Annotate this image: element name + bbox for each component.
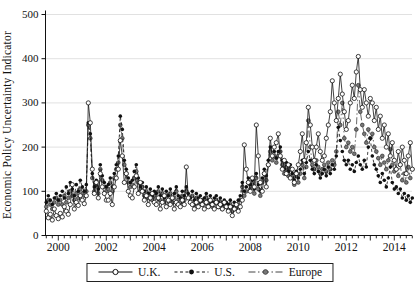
legend-label-us: U.S. <box>214 266 234 278</box>
legend-item-us: U.S. <box>173 266 234 278</box>
chart-figure: Economic Policy Uncertainty Indicator 01… <box>0 0 419 287</box>
svg-text:2010: 2010 <box>287 241 310 253</box>
legend: U.K. U.S. Europe <box>86 263 333 282</box>
legend-label-europe: Europe <box>289 266 322 278</box>
uk-line-marker-icon <box>97 267 133 277</box>
svg-text:300: 300 <box>22 96 39 108</box>
svg-text:2008: 2008 <box>239 241 262 253</box>
us-line-marker-icon <box>173 267 209 277</box>
svg-text:500: 500 <box>22 8 39 20</box>
svg-text:2000: 2000 <box>47 241 70 253</box>
svg-text:100: 100 <box>22 185 39 197</box>
legend-label-uk: U.K. <box>138 266 160 278</box>
svg-text:2012: 2012 <box>335 241 358 253</box>
svg-text:0: 0 <box>33 229 39 241</box>
svg-text:400: 400 <box>22 52 39 64</box>
legend-item-europe: Europe <box>248 266 322 278</box>
svg-text:2006: 2006 <box>191 241 214 253</box>
svg-text:2004: 2004 <box>143 241 166 253</box>
svg-text:2002: 2002 <box>95 241 118 253</box>
svg-text:200: 200 <box>22 141 39 153</box>
svg-text:2014: 2014 <box>383 241 406 253</box>
plot-area: 0100200300400500200020022004200620082010… <box>0 0 419 287</box>
europe-line-marker-icon <box>248 267 284 277</box>
legend-item-uk: U.K. <box>97 266 160 278</box>
